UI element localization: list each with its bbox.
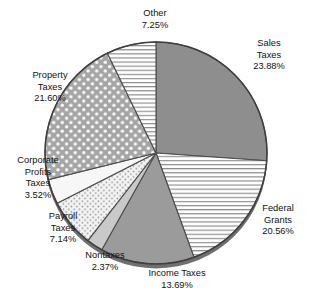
pie-label-other-line1: Other xyxy=(118,8,192,20)
pie-label-corporate-profits-taxes-line4: 3.52% xyxy=(2,190,74,202)
pie-label-property-taxes-line1: Property xyxy=(14,70,86,82)
pie-label-payroll-taxes-line3: 7.14% xyxy=(34,234,92,246)
pie-label-nontaxes: Nontaxes 2.37% xyxy=(68,250,142,273)
pie-label-payroll-taxes: Payroll Taxes 7.14% xyxy=(34,211,92,246)
pie-label-federal-grants-line2: Grants xyxy=(248,215,308,227)
pie-label-payroll-taxes-line2: Taxes xyxy=(34,223,92,235)
pie-label-sales-taxes-line3: 23.88% xyxy=(232,61,306,73)
pie-label-nontaxes-line1: Nontaxes xyxy=(68,250,142,262)
pie-label-corporate-profits-taxes-line2: Profits xyxy=(2,167,74,179)
pie-label-sales-taxes-line2: Taxes xyxy=(232,50,306,62)
pie-label-nontaxes-line2: 2.37% xyxy=(68,262,142,274)
pie-label-other: Other 7.25% xyxy=(118,8,192,31)
pie-label-corporate-profits-taxes: Corporate Profits Taxes 3.52% xyxy=(2,155,74,201)
pie-label-property-taxes-line2: Taxes xyxy=(14,82,86,94)
pie-label-sales-taxes-line1: Sales xyxy=(232,38,306,50)
pie-label-property-taxes: Property Taxes 21.60% xyxy=(14,70,86,105)
pie-label-payroll-taxes-line1: Payroll xyxy=(34,211,92,223)
pie-label-income-taxes-line2: 13.69% xyxy=(124,280,230,292)
pie-label-federal-grants-line1: Federal xyxy=(248,203,308,215)
pie-label-corporate-profits-taxes-line3: Taxes xyxy=(2,178,74,190)
pie-label-sales-taxes: Sales Taxes 23.88% xyxy=(232,38,306,73)
pie-label-property-taxes-line3: 21.60% xyxy=(14,93,86,105)
pie-label-federal-grants-line3: 20.56% xyxy=(248,226,308,238)
pie-label-federal-grants: Federal Grants 20.56% xyxy=(248,203,308,238)
pie-label-corporate-profits-taxes-line1: Corporate xyxy=(2,155,74,167)
pie-chart-figure: Other 7.25% Sales Taxes 23.88% Federal G… xyxy=(0,0,312,302)
pie-label-other-line2: 7.25% xyxy=(118,20,192,32)
